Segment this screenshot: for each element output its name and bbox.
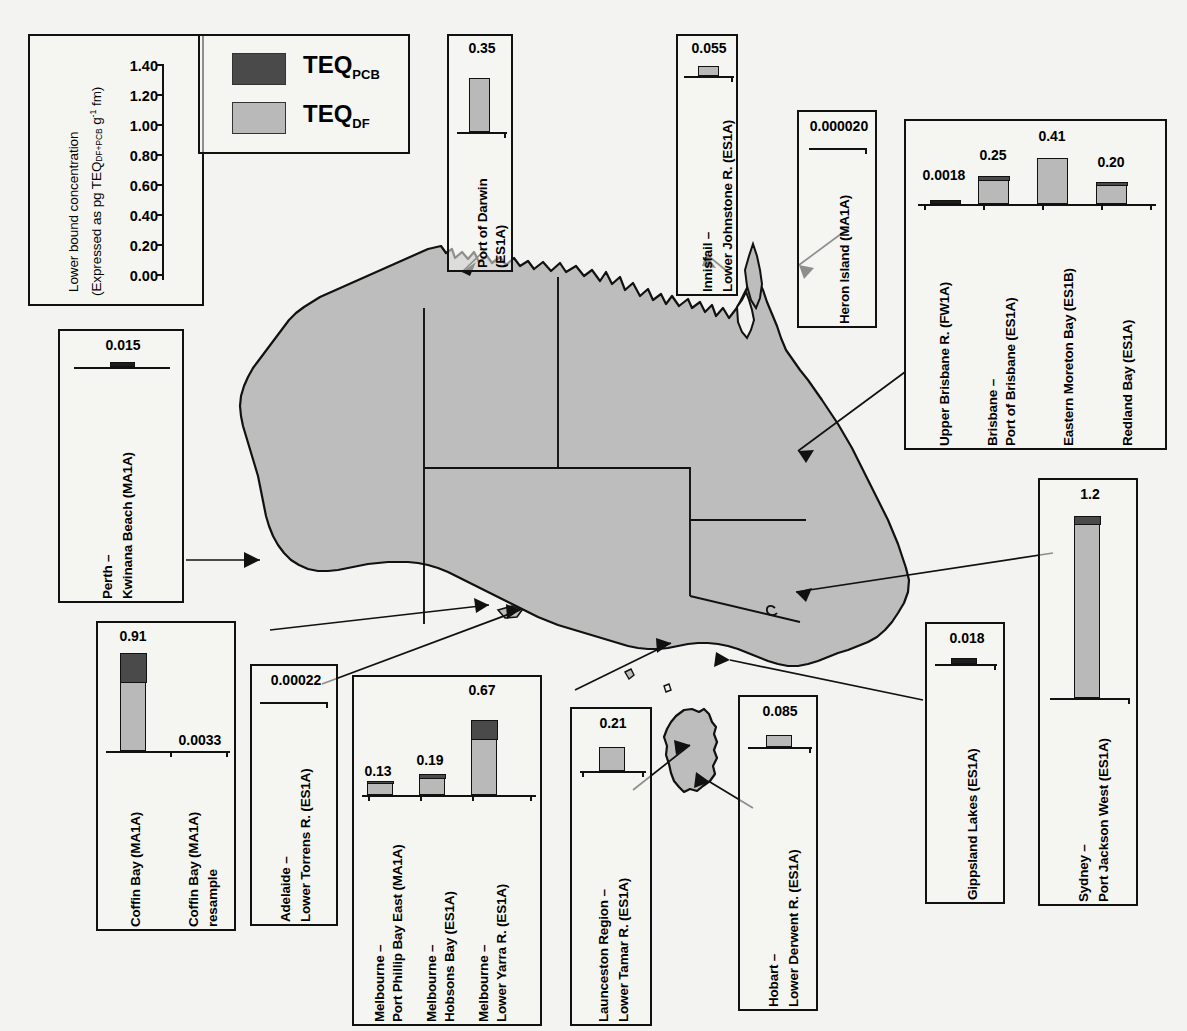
axis-tick-list: 1.40 1.20 1.00 0.80 0.60 0.40 0.20 0.00 <box>92 58 174 284</box>
axis-tick-1.40: 1.40 <box>106 58 158 74</box>
category-label-coffin-bay-resample-line2: resample <box>205 869 220 927</box>
category-label-lower-yarra-r-line1: Melbourne – <box>476 945 491 1022</box>
leader-melbourne <box>575 643 671 690</box>
category-label-port-of-brisbane-line2: Port of Brisbane (ES1A) <box>1003 298 1018 446</box>
series-legend-panel: TEQPCB TEQDF <box>198 34 410 154</box>
category-label-launceston-line1: Launceston Region – <box>596 889 611 1022</box>
bar-redland-bay <box>1096 182 1127 204</box>
state-border-nsw-vic <box>690 596 800 622</box>
tasmania-shape <box>664 709 717 792</box>
axis-tick-1.00: 1.00 <box>106 118 158 134</box>
category-label-port-of-darwin-line2: (ES1A) <box>493 225 508 268</box>
category-label-port-of-brisbane-line1: Brisbane – <box>985 379 1000 446</box>
small-island-1 <box>625 669 634 679</box>
arrowhead-gippsland <box>714 652 730 667</box>
panel-port-of-darwin: 0.35 Port of Darwin (ES1A) <box>447 34 513 272</box>
bar-coffin-bay <box>120 653 146 751</box>
category-label-upper-brisbane-r: Upper Brisbane R. (FW1A) <box>937 282 952 446</box>
panel-adelaide: 0.00022 Adelaide – Lower Torrens R. (ES1… <box>250 664 338 926</box>
value-label-gippsland-lakes: 0.018 <box>927 630 1007 646</box>
value-label-lower-yarra-r: 0.67 <box>460 682 504 698</box>
bar-lower-yarra-r-pcb <box>471 720 498 740</box>
bar-eastern-moreton-bay <box>1037 158 1068 204</box>
value-label-heron-island: 0.000020 <box>799 118 879 134</box>
arrowhead-hobart <box>694 772 710 788</box>
category-label-heron-island: Heron Island (MA1A) <box>837 195 852 324</box>
axis-tick-0.60: 0.60 <box>106 178 158 194</box>
panel-hobart: 0.085 Hobart – Lower Derwent R. (ES1A) <box>738 695 818 1011</box>
arrowhead-coffin <box>474 598 489 613</box>
category-label-eastern-moreton-bay: Eastern Moreton Bay (ES1B) <box>1061 268 1076 446</box>
category-label-redland-bay: Redland Bay (ES1A) <box>1120 320 1135 446</box>
axis-tick-0.40: 0.40 <box>106 208 158 224</box>
value-label-upper-brisbane-r: 0.0018 <box>910 167 978 183</box>
panel-melbourne: 0.13 Melbourne – Port Phillip Bay East (… <box>352 675 542 1026</box>
gulf-of-carpentaria <box>737 292 754 338</box>
category-label-hobsons-bay-line2: Hobsons Bay (ES1A) <box>442 891 457 1022</box>
arrowhead-sydney <box>796 588 812 602</box>
bar-redland-bay-pcb <box>1096 182 1128 186</box>
axis-tick-0.80: 0.80 <box>106 148 158 164</box>
panel-innisfail: 0.055 Innisfail – Lower Johnstone R. (ES… <box>676 34 738 296</box>
panel-perth: 0.015 Perth – Kwinana Beach (MA1A) <box>58 329 184 603</box>
value-label-sydney: 1.2 <box>1040 486 1140 502</box>
value-label-adelaide: 0.00022 <box>252 672 340 688</box>
arrowhead-adelaide <box>506 604 520 619</box>
category-label-innisfail-line1: Innisfail – <box>700 232 715 292</box>
category-label-port-phillip-bay-east-line2: Port Phillip Bay East (MA1A) <box>390 845 405 1022</box>
cape-york-peninsula <box>745 244 762 308</box>
value-label-perth: 0.015 <box>60 337 186 353</box>
panel-brisbane-region: 0.0018 Upper Brisbane R. (FW1A) 0.25 Bri… <box>904 119 1167 450</box>
bar-port-phillip-bay-east <box>367 781 393 795</box>
leader-brisbane <box>798 372 905 451</box>
category-label-port-of-darwin-line1: Port of Darwin <box>475 179 490 268</box>
bar-hobsons-bay <box>419 774 445 795</box>
bar-port-of-brisbane-pcb <box>978 176 1010 181</box>
panel-heron-island: 0.000020 Heron Island (MA1A) <box>797 110 877 328</box>
bar-hobart-lower-derwent-r <box>766 735 792 747</box>
value-label-port-of-brisbane: 0.25 <box>967 147 1019 163</box>
leader-coffin <box>270 605 489 630</box>
legend-teq-pcb-sub: PCB <box>352 67 379 82</box>
arrowhead-launceston <box>674 740 690 755</box>
category-label-coffin-bay: Coffin Bay (MA1A) <box>128 812 143 927</box>
arrowhead-melbourne <box>656 638 671 653</box>
axis-tick-1.20: 1.20 <box>106 88 158 104</box>
category-label-hobart-line1: Hobart – <box>766 954 781 1007</box>
small-island-2 <box>664 684 671 692</box>
category-label-innisfail-line2: Lower Johnstone R. (ES1A) <box>720 120 735 292</box>
category-label-hobart-line2: Lower Derwent R. (ES1A) <box>786 850 801 1007</box>
legend-teq-df-sub: DF <box>352 116 369 131</box>
category-label-launceston-line2: Lower Tamar R. (ES1A) <box>616 878 631 1022</box>
category-label-hobsons-bay-line1: Melbourne – <box>424 945 439 1022</box>
axis-rule <box>162 64 164 280</box>
bar-innisfail <box>698 66 719 76</box>
bar-upper-brisbane-r <box>930 200 961 204</box>
leader-sydney <box>796 553 1053 592</box>
category-label-gippsland-lakes: Gippsland Lakes (ES1A) <box>965 748 980 900</box>
leader-gippsland <box>730 660 923 700</box>
value-label-hobart: 0.085 <box>740 703 820 719</box>
value-label-port-phillip-bay-east: 0.13 <box>356 763 400 779</box>
leader-adelaide <box>322 610 520 684</box>
bar-hobsons-bay-pcb <box>419 774 446 779</box>
value-label-eastern-moreton-bay: 0.41 <box>1026 128 1078 144</box>
category-label-adelaide-line1: Adelaide – <box>278 856 293 922</box>
arrowhead-brisbane <box>798 450 814 463</box>
axis-tick-0.20: 0.20 <box>106 238 158 254</box>
kangaroo-island <box>498 606 522 618</box>
category-label-lower-yarra-r-line2: Lower Yarra R. (ES1A) <box>494 884 509 1022</box>
bar-sydney-port-jackson-west-pcb <box>1074 516 1101 525</box>
bar-lower-yarra-r <box>471 720 497 795</box>
bar-launceston-lower-tamar-r <box>599 747 625 771</box>
value-label-coffin-bay: 0.91 <box>98 628 168 644</box>
act-outline <box>767 606 777 615</box>
category-label-coffin-bay-resample-line1: Coffin Bay (MA1A) <box>186 812 201 927</box>
value-label-redland-bay: 0.20 <box>1085 154 1137 170</box>
category-label-perth-line1: Perth – <box>100 555 115 599</box>
bar-port-phillip-bay-east-pcb <box>367 781 394 784</box>
category-label-sydney-line1: Sydney – <box>1076 844 1091 902</box>
legend-swatch-teq-df <box>232 102 286 134</box>
legend-teq-df-text: TEQ <box>303 100 352 127</box>
value-label-innisfail: 0.055 <box>678 40 740 56</box>
